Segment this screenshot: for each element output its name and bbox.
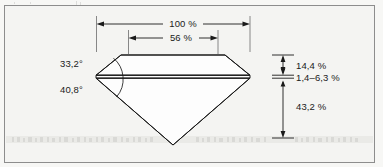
label-pavilion-depth: 43,2 % [296, 101, 327, 112]
label-pavilion-angle: 40,8° [60, 84, 83, 95]
label-crown-angle: 33,2° [60, 58, 83, 69]
label-crown-height: 14,4 % [296, 60, 327, 71]
diagram-canvas: 100 % 56 % 1 [0, 0, 383, 167]
scan-artifact-band [6, 136, 373, 143]
label-girdle-diameter: 100 % [169, 18, 197, 29]
label-table-width: 56 % [170, 32, 193, 43]
label-girdle-thickness: 1,4–6,3 % [296, 72, 340, 83]
brilliant-cut-diagram: 100 % 56 % 1 [0, 0, 383, 167]
